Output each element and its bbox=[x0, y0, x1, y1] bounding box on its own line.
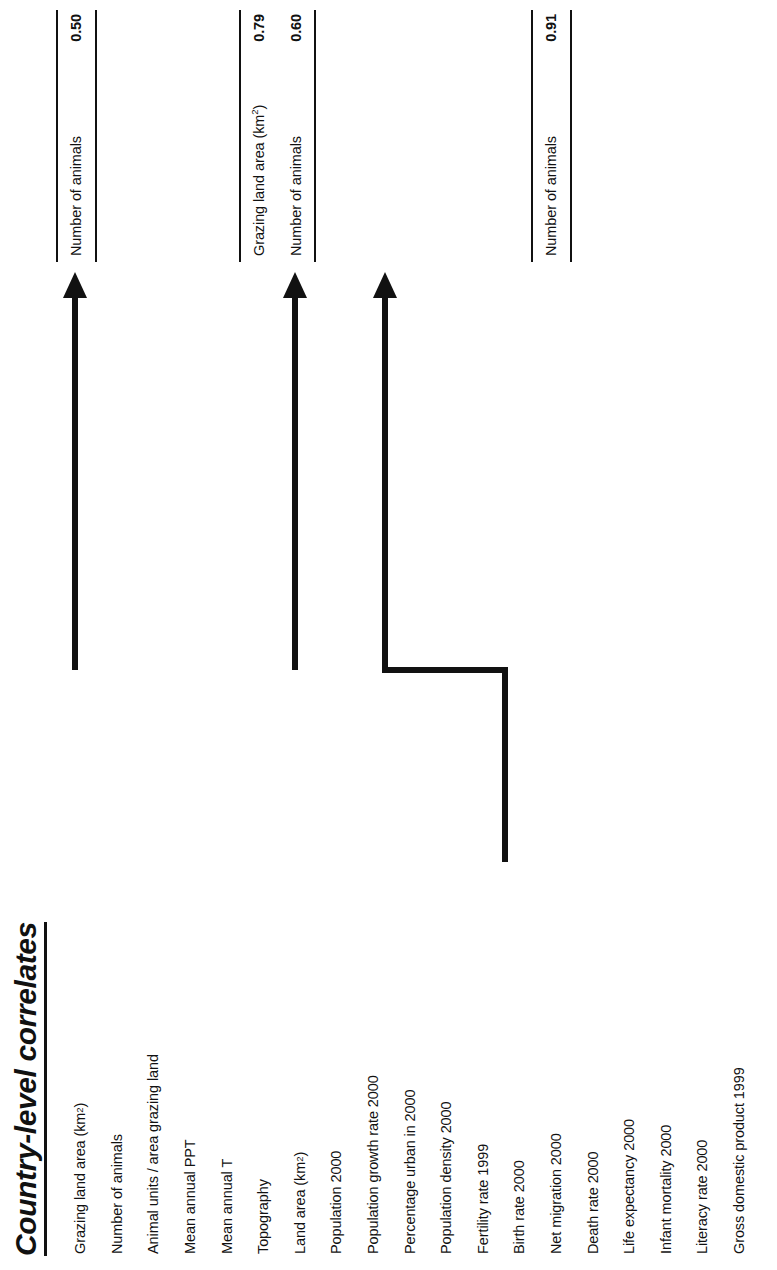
result-predictor-name: Number of animals bbox=[288, 74, 304, 262]
page-title: Country-level correlates bbox=[10, 922, 47, 1256]
variable-label: Gross domestic product 1999 bbox=[732, 1067, 746, 1254]
result-correlation-value: 0.60 bbox=[288, 10, 304, 74]
variable-label: Animal units / area grazing land bbox=[146, 1054, 160, 1254]
figure-canvas: Country-level correlates Grazing land ar… bbox=[0, 0, 777, 1270]
list-item: Animal units / area grazing land bbox=[135, 954, 172, 1254]
list-item: Land area (km2) bbox=[282, 954, 319, 1254]
table-row: Number of animals 0.60 bbox=[278, 10, 315, 262]
variable-label: Population density 2000 bbox=[439, 1102, 453, 1255]
variable-label: Life expectancy 2000 bbox=[622, 1119, 636, 1254]
list-item: Fertility rate 1999 bbox=[465, 954, 502, 1254]
variable-label: Net migration 2000 bbox=[549, 1133, 563, 1254]
variable-label: Land area (km bbox=[293, 1162, 307, 1254]
variable-label: Mean annual T bbox=[220, 1159, 234, 1254]
list-item: Number of animals bbox=[99, 954, 136, 1254]
result-correlation-value: 0.91 bbox=[543, 10, 559, 74]
result-predictor-name: Grazing land area (km2) bbox=[251, 74, 267, 262]
list-item: Mean annual T bbox=[208, 954, 245, 1254]
table-row: Number of animals 0.50 bbox=[58, 10, 95, 262]
result-group-3: Number of animals 0.91 bbox=[531, 10, 572, 262]
list-item: Percentage urban in 2000 bbox=[391, 954, 428, 1254]
result-correlation-value: 0.50 bbox=[68, 10, 84, 74]
list-item: Mean annual PPT bbox=[172, 954, 209, 1254]
arrow-percentage-urban-to-group-3 bbox=[365, 266, 525, 866]
variable-label: Mean annual PPT bbox=[183, 1139, 197, 1254]
list-item: Life expectancy 2000 bbox=[611, 954, 648, 1254]
table-row: Grazing land area (km2) 0.79 bbox=[241, 10, 278, 262]
variable-label: Birth rate 2000 bbox=[512, 1160, 526, 1254]
variable-label: Topography bbox=[256, 1179, 270, 1254]
list-item: Gross domestic product 1999 bbox=[721, 954, 758, 1254]
variable-label: Death rate 2000 bbox=[586, 1152, 600, 1255]
list-item: Net migration 2000 bbox=[538, 954, 575, 1254]
variable-label: Population growth rate 2000 bbox=[366, 1075, 380, 1254]
arrow-grazing-land-to-group-1 bbox=[55, 270, 95, 670]
rotated-figure-layer: Country-level correlates Grazing land ar… bbox=[0, 0, 777, 1270]
variable-label: Fertility rate 1999 bbox=[476, 1144, 490, 1254]
result-predictor-name: Number of animals bbox=[543, 74, 559, 262]
variable-label-tail: ) bbox=[293, 1152, 307, 1157]
result-group-1: Number of animals 0.50 bbox=[56, 10, 97, 262]
variable-label: Population 2000 bbox=[329, 1151, 343, 1254]
result-group-2: Grazing land area (km2) 0.79 Number of a… bbox=[239, 10, 316, 262]
variable-label: Number of animals bbox=[110, 1134, 124, 1254]
variable-label: Percentage urban in 2000 bbox=[403, 1090, 417, 1254]
variable-label-tail: ) bbox=[73, 1103, 87, 1108]
list-item: Topography bbox=[245, 954, 282, 1254]
variable-label: Grazing land area (km bbox=[73, 1113, 87, 1254]
list-item: Population growth rate 2000 bbox=[355, 954, 392, 1254]
result-correlation-value: 0.79 bbox=[251, 10, 267, 74]
list-item: Death rate 2000 bbox=[574, 954, 611, 1254]
list-item: Infant mortality 2000 bbox=[648, 954, 685, 1254]
list-item: Birth rate 2000 bbox=[501, 954, 538, 1254]
table-row: Number of animals 0.91 bbox=[533, 10, 570, 262]
variable-list: Grazing land area (km2) Number of animal… bbox=[62, 954, 757, 1254]
variable-label: Infant mortality 2000 bbox=[659, 1125, 673, 1254]
arrow-land-area-to-group-2 bbox=[275, 270, 315, 670]
result-predictor-name: Number of animals bbox=[68, 74, 84, 262]
list-item: Population density 2000 bbox=[428, 954, 465, 1254]
list-item: Literacy rate 2000 bbox=[684, 954, 721, 1254]
variable-label: Literacy rate 2000 bbox=[695, 1140, 709, 1254]
list-item: Grazing land area (km2) bbox=[62, 954, 99, 1254]
list-item: Population 2000 bbox=[318, 954, 355, 1254]
